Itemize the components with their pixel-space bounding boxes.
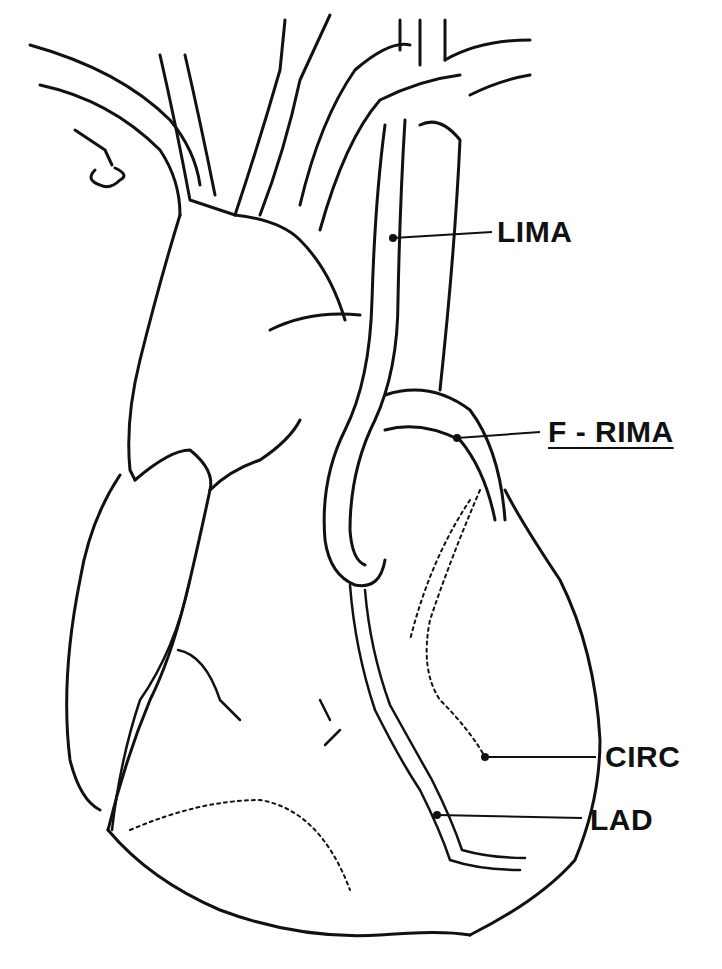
right-coronary (112, 580, 240, 830)
label-f-rima: F - RIMA (548, 417, 674, 447)
label-lima: LIMA (497, 217, 572, 247)
circ-artery (130, 490, 485, 890)
lad-artery (320, 585, 525, 870)
label-circ: CIRC (605, 742, 680, 772)
label-lad: LAD (590, 805, 653, 835)
label-leaders (393, 232, 596, 818)
ligature-icon (75, 130, 124, 187)
great-vessels (30, 15, 530, 230)
heart-bypass-diagram: LIMA F - RIMA CIRC LAD (0, 0, 722, 969)
lima-graft (324, 120, 405, 586)
heart-outline (67, 215, 600, 936)
